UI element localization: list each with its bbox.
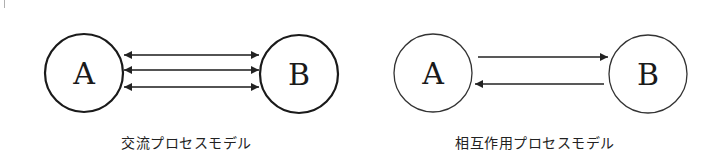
node-a: A	[394, 34, 472, 112]
interaction-model: A B	[394, 34, 687, 113]
svg-text:B: B	[637, 57, 659, 92]
svg-text:B: B	[288, 57, 310, 92]
caption-interaction-model: 相互作用プロセスモデル	[455, 132, 615, 152]
node-a: A	[45, 34, 123, 112]
caption-transactional-model: 交流プロセスモデル	[121, 132, 252, 152]
process-model-diagrams: A B A B	[0, 0, 727, 163]
svg-text:A: A	[421, 56, 444, 91]
node-b: B	[260, 35, 338, 113]
node-b: B	[609, 35, 687, 113]
svg-text:A: A	[72, 56, 95, 91]
transactional-model: A B	[45, 34, 338, 113]
